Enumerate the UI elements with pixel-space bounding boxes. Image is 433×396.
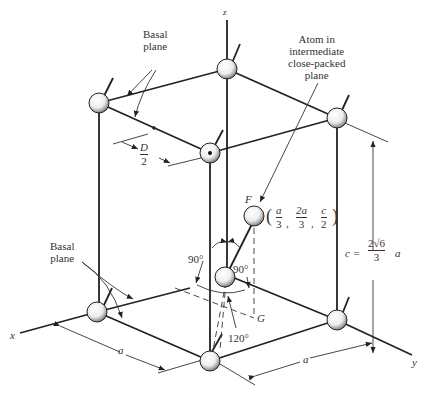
basal-plane-bottom-label: Basal plane xyxy=(50,240,74,264)
atom-bottom-right xyxy=(327,310,347,330)
atom-bottom-front xyxy=(200,351,220,371)
y-axis-label: y xyxy=(412,356,417,368)
basal-plane-top-label: Basal plane xyxy=(143,28,167,52)
x-axis-label: x xyxy=(10,329,15,341)
point-F-label: F xyxy=(245,193,252,205)
atom-top-back xyxy=(217,59,237,79)
atom-bottom-left xyxy=(87,302,107,322)
hcp-diagram-canvas xyxy=(0,0,433,396)
dim-a-right: a xyxy=(303,353,309,365)
point-G-label: G xyxy=(257,312,265,324)
angle-90-left: 90° xyxy=(188,253,203,265)
center-dot xyxy=(208,151,212,155)
d-over-2-label: D2 xyxy=(140,142,148,167)
atom-bottom-back xyxy=(215,267,235,287)
atom-top-left xyxy=(89,93,109,113)
cell-edges xyxy=(20,20,412,361)
atom-F xyxy=(244,206,264,226)
intermediate-atom-label: Atom in intermediate close-packed plane xyxy=(288,33,345,81)
dim-a-left: a xyxy=(118,344,124,356)
angle-90-right: 90° xyxy=(233,263,248,275)
z-axis-label: z xyxy=(223,6,227,18)
midpoint-dot xyxy=(152,126,156,130)
atom-top-right xyxy=(327,108,347,128)
angle-120: 120° xyxy=(228,332,249,344)
